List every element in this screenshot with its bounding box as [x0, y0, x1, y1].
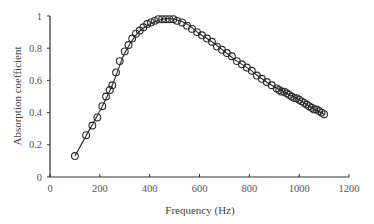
data-point-marker — [116, 58, 123, 65]
y-tick-label: 0.2 — [29, 139, 42, 150]
y-axis-title: Absorption coefficient — [11, 46, 23, 145]
y-tick-label: 0.8 — [29, 43, 42, 54]
measured-data-markers — [72, 16, 328, 160]
x-axis-title: Frequency (Hz) — [165, 204, 235, 217]
x-tick-label: 400 — [142, 183, 158, 194]
y-tick-label: 0.6 — [29, 75, 42, 86]
x-tick-label: 0 — [47, 183, 52, 194]
x-tick-label: 200 — [92, 183, 108, 194]
y-tick-label: 0.4 — [29, 107, 43, 118]
y-tick-label: 1 — [37, 11, 42, 22]
x-tick-label: 1200 — [339, 183, 360, 194]
y-axis-ticks: 00.20.40.60.81 — [29, 11, 50, 183]
data-point-marker — [189, 25, 196, 32]
x-tick-label: 600 — [192, 183, 208, 194]
absorption-chart: 00.20.40.60.81 020040060080010001200 Fre… — [0, 0, 374, 224]
axes — [50, 16, 349, 177]
x-tick-label: 1000 — [289, 183, 310, 194]
data-point-marker — [214, 43, 221, 50]
y-tick-label: 0 — [37, 172, 42, 183]
x-tick-label: 800 — [241, 183, 257, 194]
